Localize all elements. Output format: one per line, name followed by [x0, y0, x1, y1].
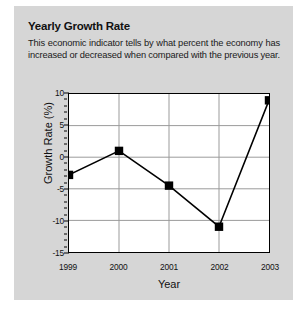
- y-minor-tick-mark: [64, 182, 67, 183]
- data-point-marker: [115, 147, 123, 155]
- y-tick-label: -5: [38, 184, 64, 194]
- y-minor-tick-mark: [64, 246, 67, 247]
- y-minor-tick-mark: [64, 214, 67, 215]
- x-tick-label: 2003: [261, 262, 279, 272]
- x-tick-label: 2002: [211, 262, 229, 272]
- y-minor-tick-mark: [64, 169, 67, 170]
- x-tick-label: 2000: [110, 262, 128, 272]
- y-minor-tick-mark: [64, 131, 67, 132]
- y-tick-label: 5: [38, 120, 64, 130]
- y-minor-tick-mark: [64, 99, 67, 100]
- x-axis-title: Year: [68, 278, 270, 290]
- x-tick-label: 1999: [59, 262, 77, 272]
- y-minor-tick-mark: [64, 163, 67, 164]
- y-minor-tick-mark: [64, 227, 67, 228]
- data-point-marker: [265, 96, 269, 104]
- y-minor-tick-mark: [64, 118, 67, 119]
- y-tick-label: -10: [38, 216, 64, 226]
- y-minor-tick-mark: [64, 233, 67, 234]
- y-minor-tick-mark: [64, 201, 67, 202]
- y-minor-tick-mark: [64, 150, 67, 151]
- plot-area: [68, 93, 270, 253]
- y-tick-label: -15: [38, 248, 64, 258]
- y-minor-tick-mark: [64, 137, 67, 138]
- chart-panel: Yearly Growth Rate This economic indicat…: [14, 6, 293, 300]
- y-tick-label: 0: [38, 152, 64, 162]
- data-point-marker: [215, 223, 223, 231]
- y-minor-tick-mark: [64, 240, 67, 241]
- y-minor-tick-mark: [64, 176, 67, 177]
- x-axis-tick-labels: 19992000200120022003: [68, 262, 270, 276]
- chart-description: This economic indicator tells by what pe…: [28, 37, 280, 61]
- data-series-growth-rate: [69, 94, 269, 252]
- y-axis-tick-labels: 1050-5-10-15: [34, 93, 64, 253]
- y-minor-tick-mark: [64, 144, 67, 145]
- chart-title: Yearly Growth Rate: [28, 20, 130, 32]
- y-tick-label: 10: [38, 88, 64, 98]
- data-point-marker: [165, 181, 173, 189]
- y-minor-tick-mark: [64, 208, 67, 209]
- data-point-marker: [69, 171, 73, 179]
- y-minor-tick-mark: [64, 195, 67, 196]
- y-minor-tick-mark: [64, 105, 67, 106]
- x-tick-label: 2001: [160, 262, 178, 272]
- y-minor-tick-mark: [64, 112, 67, 113]
